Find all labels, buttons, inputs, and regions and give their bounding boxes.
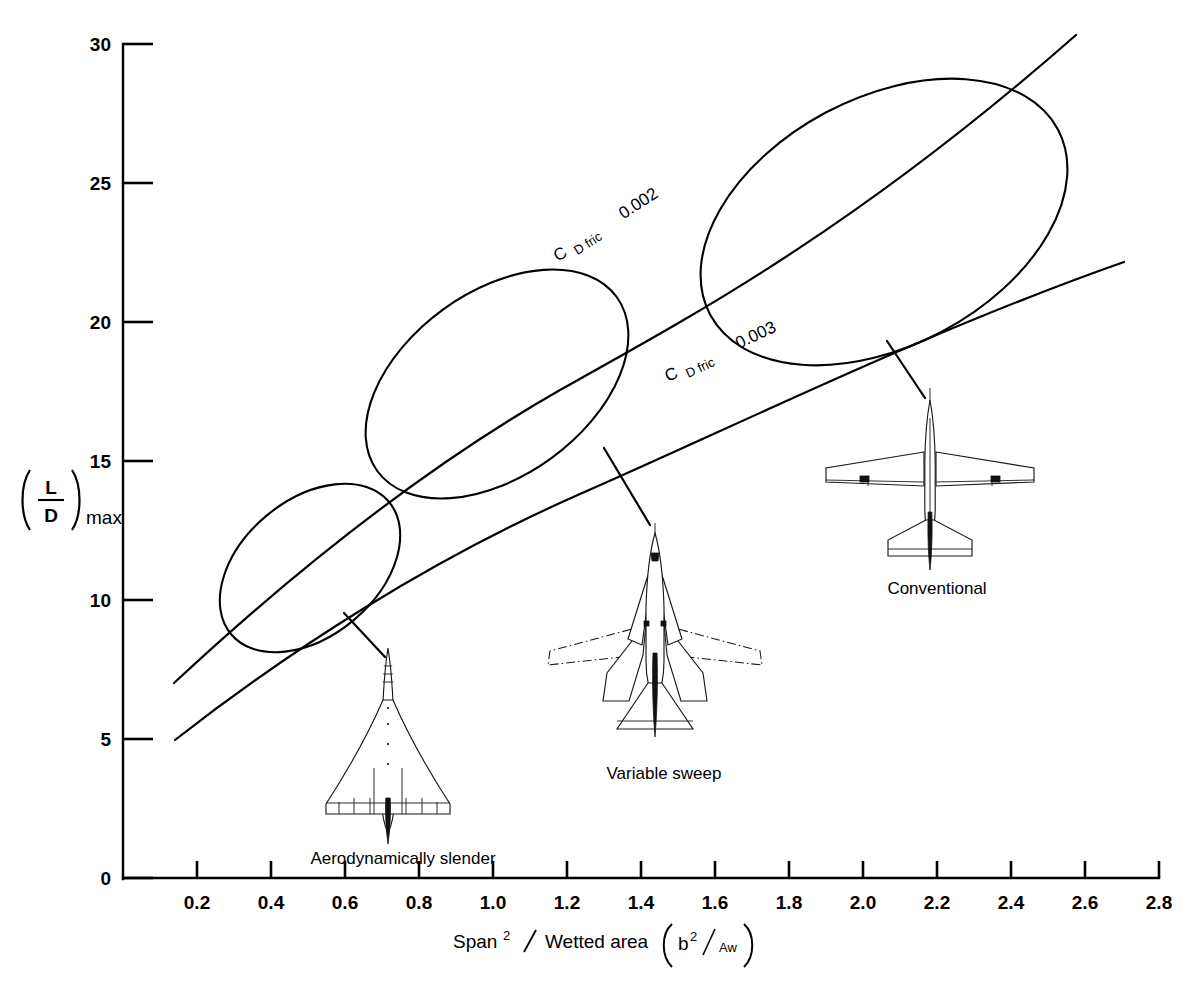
- curve-label-0.003: C D fric 0.003: [662, 317, 781, 389]
- y-title-subscript: max: [86, 507, 122, 528]
- x-title-slash: [524, 930, 536, 952]
- ac2-pivot-left: [644, 621, 649, 626]
- aircraft-variable-sweep: [548, 523, 762, 737]
- curve-label-0.002-value: 0.002: [615, 184, 661, 223]
- x-title-wetted-area: Wetted area: [545, 931, 649, 952]
- ac3-engine-mark-right: [991, 476, 1000, 482]
- y-title-paren-right: [72, 470, 80, 530]
- ac3-vertical-fin: [928, 512, 932, 570]
- region-ellipse-variable-sweep: [323, 223, 671, 546]
- region-ellipse-aerodynamically-slender: [187, 450, 432, 687]
- x-title-paren-right: [744, 924, 752, 967]
- leader-variable-sweep: [604, 448, 650, 525]
- region-ellipse-conventional: [652, 20, 1116, 424]
- x-tick-label-0.2: 0.2: [184, 892, 210, 913]
- y-title-paren-left: [23, 470, 31, 530]
- x-tick-label-2.2: 2.2: [924, 892, 950, 913]
- ac2-canopy: [651, 553, 659, 561]
- y-tick-label-20: 20: [90, 312, 111, 333]
- x-title-b-exponent: 2: [690, 929, 697, 944]
- ac3-engine-mark-left: [860, 476, 869, 482]
- y-tick-label-30: 30: [90, 34, 111, 55]
- x-tick-label-1.0: 1.0: [480, 892, 506, 913]
- aircraft-label-aerodynamically-slender: Aerodynamically slender: [310, 849, 496, 868]
- x-title-span-exponent: 2: [503, 928, 510, 943]
- aircraft-aerodynamically-slender: [326, 648, 450, 844]
- x-title-inner-slash: [703, 929, 715, 955]
- y-axis-tick-labels: 30 25 20 15 10 5 0: [90, 34, 112, 889]
- y-tick-label-15: 15: [90, 451, 112, 472]
- aircraft-label-conventional: Conventional: [887, 579, 986, 598]
- ac1-centre-dot-4: [387, 763, 389, 765]
- x-tick-label-2.0: 2.0: [850, 892, 876, 913]
- x-axis: 0.2 0.4 0.6 0.8 1.0 1.2 1.4 1.6 1.8 2.0 …: [123, 861, 1172, 913]
- x-tick-label-2.4: 2.4: [998, 892, 1025, 913]
- y-tick-label-25: 25: [90, 173, 112, 194]
- x-tick-label-1.2: 1.2: [554, 892, 580, 913]
- x-tick-label-0.6: 0.6: [332, 892, 358, 913]
- y-title-denominator: D: [44, 505, 58, 526]
- y-tick-label-0: 0: [100, 868, 111, 889]
- x-tick-label-1.8: 1.8: [776, 892, 802, 913]
- ac1-vertical-fin: [386, 798, 391, 844]
- curve-label-0.002-sub: D fric: [571, 228, 605, 257]
- curve-label-0.003-value: 0.003: [732, 317, 779, 352]
- y-tick-label-5: 5: [100, 729, 111, 750]
- y-axis: 30 25 20 15 10 5 0: [90, 34, 153, 889]
- y-title-numerator: L: [45, 477, 57, 498]
- ac1-centre-dot-1: [387, 707, 389, 709]
- aircraft-conventional: [826, 388, 1034, 570]
- curve-label-0.002-c: C: [550, 243, 571, 266]
- x-tick-label-0.8: 0.8: [406, 892, 432, 913]
- leader-conventional: [887, 341, 925, 398]
- ld-max-chart: 30 25 20 15 10 5 0: [0, 0, 1182, 990]
- x-title-aw: Aw: [719, 940, 737, 955]
- aircraft-label-variable-sweep: Variable sweep: [607, 764, 722, 783]
- x-tick-label-0.4: 0.4: [258, 892, 285, 913]
- x-title-paren-left: [664, 924, 672, 967]
- curve-label-0.003-sub: D fric: [683, 354, 717, 381]
- ac1-centre-dot-2: [387, 723, 389, 725]
- ac1-centre-dot-3: [387, 743, 389, 745]
- x-axis-title: Span 2 Wetted area b 2 Aw: [453, 924, 752, 967]
- leader-aerodynamically-slender: [344, 613, 385, 657]
- ac2-pivot-right: [661, 621, 666, 626]
- x-tick-label-1.4: 1.4: [628, 892, 655, 913]
- chart-page: 30 25 20 15 10 5 0: [0, 0, 1182, 990]
- curve-label-0.002: C D fric 0.002: [550, 184, 664, 269]
- ac1-delta-wing: [326, 700, 450, 814]
- x-tick-label-2.6: 2.6: [1072, 892, 1098, 913]
- y-axis-ticks: [123, 44, 153, 878]
- x-tick-label-2.8: 2.8: [1146, 892, 1172, 913]
- x-axis-tick-labels: 0.2 0.4 0.6 0.8 1.0 1.2 1.4 1.6 1.8 2.0 …: [184, 892, 1172, 913]
- y-tick-label-10: 10: [90, 590, 111, 611]
- x-tick-label-1.6: 1.6: [702, 892, 728, 913]
- y-axis-title: L D max: [23, 470, 123, 530]
- curve-label-0.003-c: C: [662, 363, 681, 385]
- x-title-b: b: [678, 933, 689, 954]
- x-title-span: Span: [453, 931, 497, 952]
